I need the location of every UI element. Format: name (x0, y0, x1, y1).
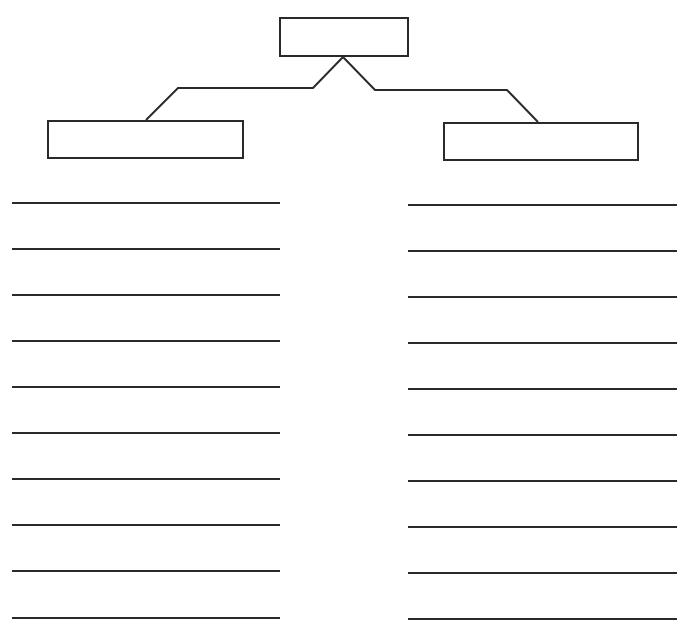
right-writing-line[interactable] (408, 618, 677, 620)
left-writing-line[interactable] (12, 202, 280, 204)
top-concept-text (281, 19, 407, 55)
right-subtopic-box[interactable] (443, 122, 639, 161)
top-concept-box[interactable] (279, 17, 409, 57)
right-writing-line[interactable] (408, 572, 677, 574)
left-subtopic-box[interactable] (47, 120, 244, 159)
left-writing-line[interactable] (12, 524, 280, 526)
left-writing-line[interactable] (12, 386, 280, 388)
left-subtopic-text (49, 122, 242, 157)
right-writing-line[interactable] (408, 526, 677, 528)
right-subtopic-text (445, 124, 637, 159)
right-writing-line[interactable] (408, 296, 677, 298)
hierarchy-worksheet (0, 0, 689, 632)
left-writing-line[interactable] (12, 478, 280, 480)
left-connector-line (146, 57, 343, 120)
left-writing-line[interactable] (12, 570, 280, 572)
right-writing-line[interactable] (408, 250, 677, 252)
left-writing-line[interactable] (12, 617, 280, 619)
left-writing-line[interactable] (12, 294, 280, 296)
right-writing-line[interactable] (408, 204, 677, 206)
right-connector-line (343, 57, 538, 122)
left-writing-line[interactable] (12, 340, 280, 342)
left-writing-line[interactable] (12, 248, 280, 250)
right-writing-line[interactable] (408, 480, 677, 482)
right-writing-line[interactable] (408, 342, 677, 344)
left-writing-line[interactable] (12, 432, 280, 434)
connector-lines (0, 0, 689, 632)
right-writing-line[interactable] (408, 434, 677, 436)
right-writing-line[interactable] (408, 388, 677, 390)
